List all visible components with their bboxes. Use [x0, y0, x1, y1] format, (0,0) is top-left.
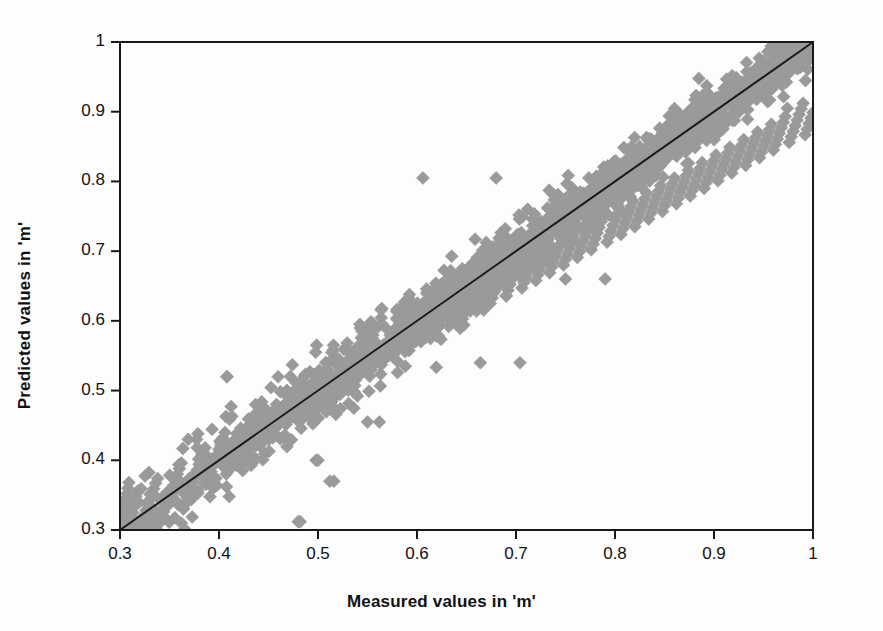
y-axis-title: Predicted values in 'm' — [8, 0, 42, 631]
y-tick-label: 0.9 — [45, 101, 105, 121]
x-axis-title: Measured values in 'm' — [0, 592, 883, 612]
y-tick-label: 0.5 — [45, 380, 105, 400]
x-tick-label: 0.6 — [387, 544, 447, 564]
y-tick-label: 0.3 — [45, 519, 105, 539]
x-tick-label: 0.8 — [585, 544, 645, 564]
y-tick-label: 0.7 — [45, 240, 105, 260]
y-tick-label: 0.8 — [45, 170, 105, 190]
scatter-chart: 0.30.40.50.60.70.80.910.30.40.50.60.70.8… — [0, 0, 883, 631]
x-tick-label: 1 — [783, 544, 843, 564]
x-tick-label: 0.7 — [486, 544, 546, 564]
y-tick-label: 0.6 — [45, 310, 105, 330]
y-tick-label: 1 — [45, 31, 105, 51]
x-tick-label: 0.3 — [90, 544, 150, 564]
x-tick-label: 0.9 — [684, 544, 744, 564]
y-tick-label: 0.4 — [45, 449, 105, 469]
x-tick-label: 0.4 — [189, 544, 249, 564]
plot-canvas — [0, 0, 883, 631]
x-tick-label: 0.5 — [288, 544, 348, 564]
